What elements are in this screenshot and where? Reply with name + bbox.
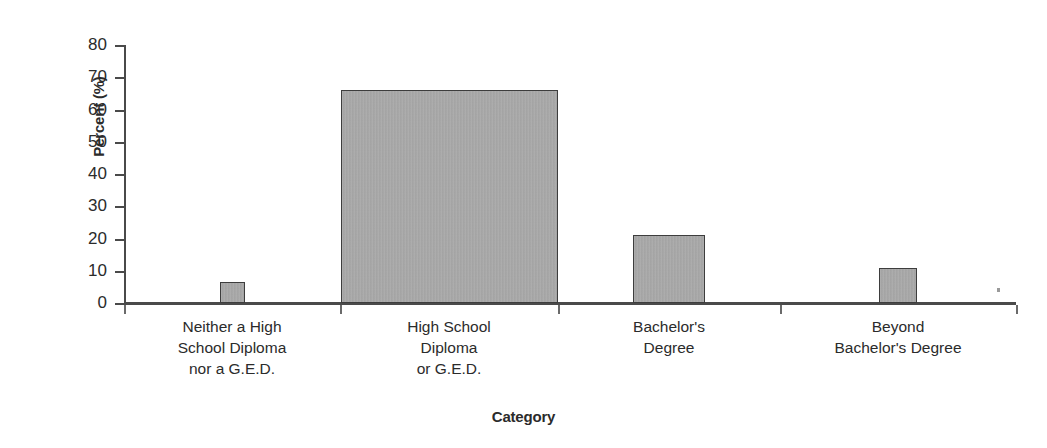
category-label-line: Bachelor's — [558, 316, 780, 337]
category-label-line: nor a G.E.D. — [124, 358, 340, 379]
category-label-line: Bachelor's Degree — [780, 337, 1016, 358]
category-label-line: or G.E.D. — [340, 358, 558, 379]
category-label-1: High SchoolDiplomaor G.E.D. — [340, 316, 558, 379]
category-label-3: BeyondBachelor's Degree — [780, 316, 1016, 358]
bar-2 — [633, 235, 705, 303]
category-label-line: Diploma — [340, 337, 558, 358]
category-label-2: Bachelor'sDegree — [558, 316, 780, 358]
category-label-line: School Diploma — [124, 337, 340, 358]
bars-layer — [0, 0, 1047, 448]
category-label-0: Neither a HighSchool Diplomanor a G.E.D. — [124, 316, 340, 379]
category-label-line: Neither a High — [124, 316, 340, 337]
category-label-line: High School — [340, 316, 558, 337]
category-label-line: Beyond — [780, 316, 1016, 337]
bar-1 — [341, 90, 558, 303]
scan-speck — [997, 288, 1000, 292]
bar-0 — [220, 282, 245, 303]
x-axis-title: Category — [0, 408, 1047, 425]
bar-3 — [879, 268, 917, 303]
category-label-line: Degree — [558, 337, 780, 358]
bar-chart: Percent (%) 01020304050607080 Neither a … — [0, 0, 1047, 448]
